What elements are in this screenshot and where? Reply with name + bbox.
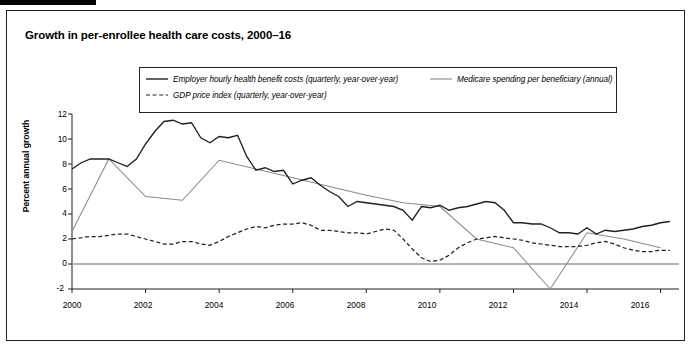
y-tick-label: 0: [45, 259, 67, 267]
y-tick-label: 2: [45, 234, 67, 242]
figure-container: Growth in per-enrollee health care costs…: [0, 0, 691, 346]
x-tick-label: 2002: [123, 300, 163, 310]
series-line-employer: [72, 120, 670, 234]
series-line-gdp: [72, 223, 670, 262]
chart-canvas: [7, 11, 686, 342]
x-tick-label: 2014: [549, 300, 589, 310]
y-tick-label: 10: [45, 135, 67, 143]
y-tick-label: 12: [45, 110, 67, 118]
x-tick-label: 2006: [265, 300, 305, 310]
y-tick-label: 8: [45, 160, 67, 168]
y-tick-label: 6: [45, 185, 67, 193]
x-tick-label: 2008: [336, 300, 376, 310]
x-tick-label: 2016: [620, 300, 660, 310]
y-tick-label: -2: [42, 284, 64, 292]
x-tick-label: 2010: [407, 300, 447, 310]
y-axis-title: Percent annual growth: [21, 111, 31, 221]
chart-plot-area: Percent annual growth 12 10 8 6 4 2 0 -2…: [7, 11, 686, 342]
y-tick-marks: [68, 114, 72, 289]
figure-frame: Growth in per-enrollee health care costs…: [6, 10, 685, 341]
series-line-medicare: [72, 159, 661, 289]
x-tick-label: 2012: [478, 300, 518, 310]
y-tick-label: 4: [45, 209, 67, 217]
x-tick-label: 2004: [194, 300, 234, 310]
x-tick-label: 2000: [52, 300, 92, 310]
x-tick-marks: [72, 289, 661, 293]
top-rule-decoration: [0, 0, 96, 5]
